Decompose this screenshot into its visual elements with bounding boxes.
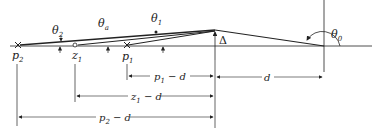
dim-d: d (217, 72, 322, 83)
svg-text:p2 − d: p2 − d (99, 112, 131, 126)
theta-a-label: θa (98, 17, 109, 32)
p2-label: p2 (12, 49, 24, 64)
root-locus-geometry-diagram: Δ θ0 θ2 θa θ1 p2 z1 p1 p1 − d d z1 − d p… (0, 0, 374, 135)
svg-text:d: d (264, 72, 270, 83)
dim-p1-minus-d: p1 − d (129, 71, 213, 85)
zero-z1-icon (73, 43, 77, 47)
ray-p2 (20, 30, 215, 45)
dim-z1-minus-d: z1 − d (77, 91, 213, 105)
svg-text:z1 − d: z1 − d (130, 91, 162, 105)
theta2-label: θ2 (52, 24, 64, 39)
delta-label: Δ (219, 34, 227, 47)
theta0-label: θ0 (331, 28, 343, 43)
dim-p2-minus-d: p2 − d (19, 112, 213, 126)
svg-text:p1 − d: p1 − d (154, 71, 186, 85)
test-point-icon (155, 31, 158, 34)
p1-label: p1 (122, 50, 134, 65)
ray-z1 (78, 31, 215, 45)
theta1-label: θ1 (151, 12, 162, 27)
z1-label: z1 (71, 49, 82, 64)
ray-origin (215, 30, 324, 46)
